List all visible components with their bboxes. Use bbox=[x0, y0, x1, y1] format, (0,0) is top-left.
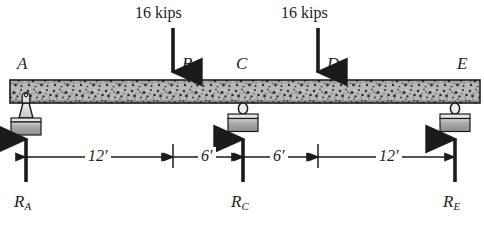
reaction-symbol-e: R bbox=[443, 192, 453, 211]
load-label-d: 16 kips bbox=[281, 4, 328, 22]
reaction-subscript-a: A bbox=[24, 200, 31, 212]
point-label-b: B bbox=[182, 54, 192, 74]
support-c-roller bbox=[228, 103, 258, 132]
load-label-b: 16 kips bbox=[135, 4, 182, 22]
dimension-label-de: 12′ bbox=[376, 147, 402, 165]
beam-body bbox=[10, 80, 480, 103]
dimension-label-ab: 12′ bbox=[85, 147, 111, 165]
reaction-label-a: RA bbox=[14, 192, 31, 212]
reaction-symbol-c: R bbox=[231, 192, 241, 211]
dimension-label-cd: 6′ bbox=[270, 147, 288, 165]
reaction-subscript-e: E bbox=[453, 200, 460, 212]
point-label-c: C bbox=[236, 54, 247, 74]
reaction-subscript-c: C bbox=[241, 200, 248, 212]
point-label-d: D bbox=[327, 54, 339, 74]
dimension-label-bc: 6′ bbox=[198, 147, 216, 165]
reaction-label-e: RE bbox=[443, 192, 460, 212]
beam-diagram-figure: 16 kips 16 kips A B C D E 12′ 6′ 6′ 12′ … bbox=[0, 0, 484, 238]
support-e-roller bbox=[440, 103, 470, 132]
point-label-a: A bbox=[17, 54, 27, 74]
reaction-symbol-a: R bbox=[14, 192, 24, 211]
reaction-label-c: RC bbox=[231, 192, 249, 212]
point-label-e: E bbox=[457, 54, 467, 74]
